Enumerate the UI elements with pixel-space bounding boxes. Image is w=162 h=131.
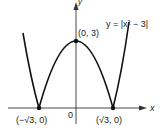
vertex-label: (0, 3)	[78, 29, 99, 38]
point-vertex	[74, 39, 78, 43]
left-zero-label: (−√3, 0)	[16, 116, 47, 125]
equation-label: y = |x² − 3|	[106, 20, 148, 29]
y-axis-label: y	[78, 0, 82, 6]
point-left-zero	[37, 106, 41, 110]
curve-left-branch	[23, 33, 39, 108]
origin-label: 0	[68, 111, 73, 120]
point-right-zero	[111, 106, 115, 110]
curve-right-branch	[113, 22, 129, 108]
x-axis-label: x	[150, 104, 155, 113]
x-axis-arrow-icon	[139, 106, 147, 111]
right-zero-label: (√3, 0)	[96, 116, 122, 125]
